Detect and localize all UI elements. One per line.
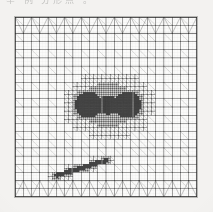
adaptive-mesh-figure	[14, 16, 198, 198]
scan-artifact-glyphs: 举 例 分形点 。	[3, 0, 95, 6]
scan-artifact-text: 举 例 分形点 。	[0, 0, 213, 11]
scanned-page: 举 例 分形点 。	[0, 0, 213, 212]
mesh-canvas	[15, 17, 197, 197]
